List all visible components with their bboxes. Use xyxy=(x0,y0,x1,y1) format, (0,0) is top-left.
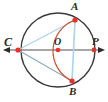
point-o-marker xyxy=(56,48,61,53)
point-label-a: A xyxy=(71,1,78,12)
point-label-o: O xyxy=(54,37,61,47)
point-c-marker xyxy=(15,47,20,52)
point-label-p: P xyxy=(92,36,99,47)
point-b-marker xyxy=(69,78,74,83)
point-p-marker xyxy=(92,48,97,53)
point-label-b: B xyxy=(69,86,76,97)
point-label-c: C xyxy=(4,36,12,48)
geometry-figure xyxy=(0,0,108,102)
axis-arrow-right-icon xyxy=(98,47,105,53)
point-a-marker xyxy=(72,17,77,22)
